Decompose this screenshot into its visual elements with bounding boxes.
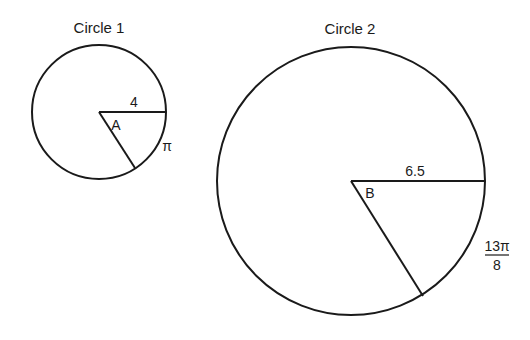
circle-2-angle-label: B [365,185,374,201]
circle-1-arc-label: π [162,138,172,154]
circle-2-group: Circle 2 6.5 B 13π 8 [217,20,510,315]
circle-1-angle-label: A [111,117,121,133]
circle-1-title: Circle 1 [74,19,125,36]
circle-2-arc-label-numerator: 13π [484,238,510,254]
circle-1-radius-label: 4 [130,94,138,110]
circle-1-group: Circle 1 4 A π [32,19,172,179]
circle-2-radius-angled [351,181,423,296]
circle-2-title: Circle 2 [325,20,376,37]
circle-2-arc-label-denominator: 8 [493,257,501,273]
circle-2-radius-label: 6.5 [405,163,425,179]
diagram-canvas: Circle 1 4 A π Circle 2 6.5 B 13π 8 [0,0,530,340]
